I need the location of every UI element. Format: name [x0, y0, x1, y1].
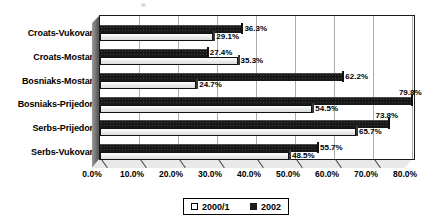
category-label-croats-mostar: Croats-Mostar: [0, 52, 93, 62]
category-label-bosniaks-prijedor: Bosniaks-Prijedor: [0, 99, 93, 109]
gridline-70: [373, 16, 374, 159]
value-label-20001-serbs-prijedor: 65.7%: [359, 127, 382, 136]
bar-20001-croats-vukovar: [100, 33, 213, 41]
x-tick-label-60: 60.0%: [305, 169, 349, 179]
bar-20001-croats-mostar: [100, 57, 238, 65]
category-label-serbs-vukovar: Serbs-Vukovar: [0, 147, 93, 157]
value-label-20001-serbs-vukovar: 48.5%: [292, 151, 315, 160]
value-label-2002-croats-vukovar: 36.3%: [244, 24, 267, 33]
gridline-50: [295, 16, 296, 159]
x-tick-label-10: 10.0%: [110, 169, 154, 179]
category-label-serbs-prijedor: Serbs-Prijedor: [0, 123, 93, 133]
value-label-20001-croats-mostar: 35.3%: [241, 56, 264, 65]
bar-20001-bosniaks-mostar: [100, 81, 196, 89]
x-tick-label-40: 40.0%: [227, 169, 271, 179]
x-tick-label-80: 80.0%: [383, 169, 427, 179]
value-label-2002-bosniaks-mostar: 62.2%: [345, 72, 368, 81]
legend-label-2000-1: 2000/1: [202, 202, 230, 212]
bar-20001-serbs-prijedor: [100, 128, 356, 136]
bar-20001-serbs-vukovar: [100, 152, 289, 160]
scan-artifact-dot: [141, 3, 146, 7]
value-label-2002-croats-mostar: 27.4%: [210, 48, 233, 57]
gridline-60: [334, 16, 335, 159]
x-tick-label-30: 30.0%: [188, 169, 232, 179]
legend-label-2002: 2002: [261, 202, 281, 212]
legend: 2000/1 2002: [183, 198, 289, 215]
category-label-croats-vukovar: Croats-Vukovar: [0, 28, 93, 38]
value-label-2002-serbs-prijedor: 73.8%: [376, 111, 399, 120]
value-label-2002-bosniaks-prijedor: 79.8%: [399, 88, 422, 97]
legend-item-2000-1: 2000/1: [191, 202, 230, 212]
bar-20001-bosniaks-prijedor: [100, 105, 312, 113]
category-label-bosniaks-mostar: Bosniaks-Mostar: [0, 76, 93, 86]
x-tick-label-70: 70.0%: [344, 169, 388, 179]
gridline-40: [256, 16, 257, 159]
legend-swatch-2002-icon: [250, 203, 257, 210]
legend-item-2002: 2002: [250, 202, 281, 212]
bar-2002-bosniaks-prijedor: [100, 97, 411, 105]
bar-2002-croats-mostar: [100, 49, 207, 57]
plot-area: 36.3%29.1%27.4%35.3%62.2%24.7%79.8%54.5%…: [99, 15, 415, 160]
x-tick-label-50: 50.0%: [266, 169, 310, 179]
bar-chart: Croats-Vukovar Croats-Mostar Bosniaks-Mo…: [0, 0, 435, 222]
value-label-20001-croats-vukovar: 29.1%: [216, 32, 239, 41]
x-tick-label-0: 0.0%: [70, 169, 114, 179]
value-label-20001-bosniaks-prijedor: 54.5%: [315, 104, 338, 113]
value-label-20001-bosniaks-mostar: 24.7%: [199, 80, 222, 89]
bar-2002-serbs-prijedor: [100, 120, 388, 128]
legend-swatch-2000-1-icon: [191, 203, 198, 210]
x-tick-label-20: 20.0%: [149, 169, 193, 179]
bar-2002-serbs-vukovar: [100, 144, 317, 152]
value-label-2002-serbs-vukovar: 55.7%: [320, 143, 343, 152]
